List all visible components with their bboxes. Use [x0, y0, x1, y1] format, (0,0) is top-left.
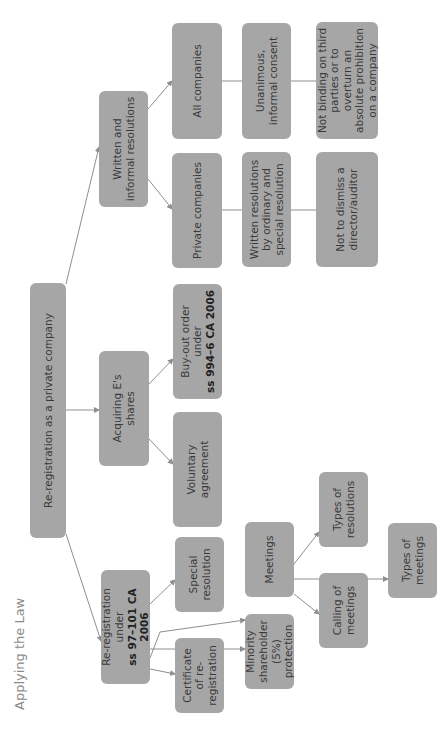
node-meetings: Meetings	[245, 522, 294, 597]
node-label: Types of resolutions	[331, 477, 356, 542]
node-reregistration: Re-registration under ss 97–101 CA 2006	[101, 570, 150, 684]
node-special-resolution: Special resolution	[175, 537, 224, 612]
node-label: Buy-out order under	[179, 289, 204, 394]
node-types-resolutions: Types of resolutions	[319, 472, 368, 547]
node-label: Not binding on third parties or to overt…	[316, 27, 379, 134]
node-label: Calling of meetings	[331, 578, 356, 643]
node-all-companies: All companies	[172, 23, 222, 139]
node-certificate: Certificate of re-registration	[175, 638, 224, 713]
node-label: Not to dismiss a director/auditor	[334, 157, 359, 262]
node-buyout-order: Buy-out order under ss 994–6 CA 2006	[173, 284, 222, 399]
node-voluntary-agreement: Voluntary agreement	[173, 412, 222, 527]
node-acquiring-shares: Acquiring E's shares	[99, 351, 149, 466]
diagram-canvas: Applying the Law Re-registration as a pr…	[0, 0, 446, 744]
node-label: Types of meetings	[400, 528, 425, 593]
node-label-bold: ss 97–101 CA 2006	[126, 575, 151, 679]
node-private-companies: Private companies	[172, 153, 222, 268]
node-label: Acquiring E's shares	[111, 356, 136, 461]
root-label: Re-registration as a private company	[42, 313, 55, 508]
node-label: Minority shareholder (5%) protection	[244, 619, 294, 684]
node-label: Unanimous, informal consent	[254, 28, 279, 134]
node-label: Meetings	[263, 536, 276, 584]
node-calling-meetings: Calling of meetings	[319, 573, 368, 648]
node-label-bold: ss 994–6 CA 2006	[204, 290, 217, 393]
node-not-binding: Not binding on third parties or to overt…	[316, 22, 378, 139]
connector-lines	[0, 0, 446, 744]
node-label: Special resolution	[187, 542, 212, 607]
node-written-resolutions: Written resolutions by ordinary and spec…	[242, 152, 291, 267]
node-label: Written and informal resolutions	[111, 96, 136, 202]
node-label: Voluntary agreement	[185, 417, 210, 522]
node-written-informal: Written and informal resolutions	[99, 91, 148, 207]
node-label: Certificate of re-registration	[181, 643, 219, 708]
node-unanimous-consent: Unanimous, informal consent	[242, 23, 291, 139]
root-node: Re-registration as a private company	[30, 283, 66, 538]
node-label: Private companies	[191, 162, 204, 259]
node-label: Written resolutions by ordinary and spec…	[248, 157, 286, 262]
node-minority-protection: Minority shareholder (5%) protection	[245, 614, 294, 689]
node-label: All companies	[191, 44, 204, 117]
node-label: Re-registration under	[100, 575, 125, 679]
section-title: Applying the Law	[12, 598, 27, 710]
node-types-meetings: Types of meetings	[388, 523, 437, 598]
node-not-dismiss: Not to dismiss a director/auditor	[316, 152, 378, 267]
